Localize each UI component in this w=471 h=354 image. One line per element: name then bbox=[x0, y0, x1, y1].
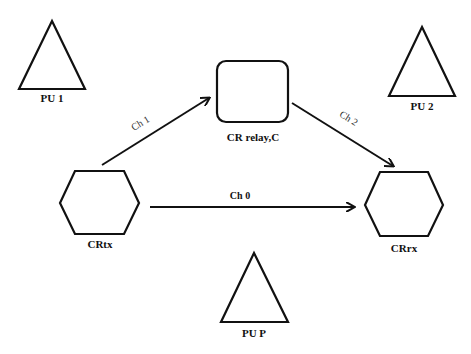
node-pu2: PU 2 bbox=[389, 27, 455, 112]
ch0-label: Ch 0 bbox=[230, 190, 250, 201]
relay-label: CR relay,C bbox=[227, 131, 279, 143]
edge-ch1: Ch 1 bbox=[102, 98, 209, 165]
node-pu1: PU 1 bbox=[19, 21, 85, 104]
pup-label: PU P bbox=[242, 327, 266, 339]
tx-hexagon-icon bbox=[60, 171, 139, 234]
diagram-canvas: PU 1 PU 2 PU P CR relay,C CRtx CRrx bbox=[0, 0, 471, 354]
tx-label: CRtx bbox=[87, 238, 113, 250]
pu2-triangle-icon bbox=[389, 27, 455, 96]
ch1-arrow-icon bbox=[102, 98, 209, 165]
network-diagram: PU 1 PU 2 PU P CR relay,C CRtx CRrx bbox=[0, 0, 471, 354]
ch1-label: Ch 1 bbox=[129, 113, 151, 132]
relay-rounded-rect-icon bbox=[217, 61, 288, 122]
pup-triangle-icon bbox=[221, 253, 288, 322]
pu1-label: PU 1 bbox=[41, 92, 64, 104]
node-tx: CRtx bbox=[60, 171, 139, 250]
node-rx: CRrx bbox=[365, 172, 443, 254]
edge-ch0: Ch 0 bbox=[150, 190, 354, 207]
pu2-label: PU 2 bbox=[411, 100, 434, 112]
rx-label: CRrx bbox=[391, 242, 418, 254]
rx-hexagon-icon bbox=[365, 172, 443, 236]
node-relay: CR relay,C bbox=[217, 61, 288, 143]
node-pup: PU P bbox=[221, 253, 288, 339]
edge-ch2: Ch 2 bbox=[292, 103, 393, 166]
pu1-triangle-icon bbox=[19, 21, 85, 89]
ch2-label: Ch 2 bbox=[338, 108, 360, 127]
